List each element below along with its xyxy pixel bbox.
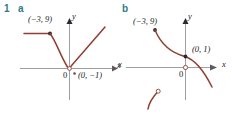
panel-b-y-axis-label: y — [188, 11, 192, 21]
panel-b-decreasing-curve — [155, 30, 212, 87]
panel-a-open-point — [68, 67, 72, 71]
panel-b-open-point-origin — [183, 65, 187, 69]
panel-b-x-axis-label-left: x — [118, 59, 122, 69]
panel-a-increasing-line — [69, 27, 105, 69]
panel-a-point-label-left: (−3, 9) — [28, 14, 52, 24]
panel-b-origin-label: 0 — [179, 69, 183, 79]
panel-a-intercept-dot — [73, 72, 76, 75]
panel-b-x-axis-arrow — [210, 65, 217, 71]
panel-b-detached-arc — [148, 93, 157, 110]
panel-a-letter: a — [18, 3, 24, 14]
panel-b-graph — [126, 18, 217, 109]
panel-a-point-label-intercept: (0, −1) — [78, 70, 102, 80]
panel-b-x-axis-label: x — [222, 59, 226, 69]
panel-a-decreasing-curve — [50, 34, 68, 68]
panel-a-y-axis-label: y — [72, 11, 76, 21]
panel-a-graph — [20, 18, 118, 100]
panel-b-intercept-point — [184, 55, 188, 59]
exercise-number: 1 — [4, 3, 10, 14]
panel-b-letter: b — [122, 3, 128, 14]
panel-a-origin-label: 0 — [63, 70, 67, 80]
panel-b-point-label-left: (−3, 9) — [133, 16, 157, 26]
panel-b-detached-arc-open-endpoint — [156, 89, 160, 93]
panel-b-point-label-intercept: (0, 1) — [192, 44, 210, 54]
